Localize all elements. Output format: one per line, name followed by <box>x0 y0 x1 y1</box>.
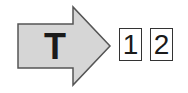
number-box-2: 2 <box>150 28 173 61</box>
arrow-label: T <box>38 29 72 65</box>
number-box-1: 1 <box>119 28 142 61</box>
